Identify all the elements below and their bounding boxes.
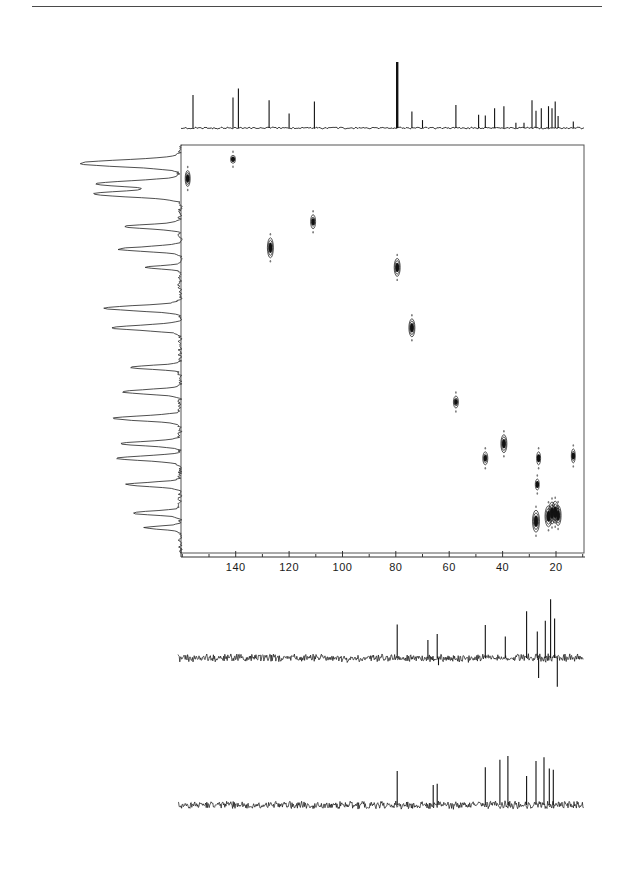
dept-baseline-noise	[178, 654, 584, 663]
hsqc-cross-peak	[394, 254, 400, 281]
proton-1d-projection	[80, 145, 182, 553]
hsqc-cross-peak-group	[185, 151, 575, 537]
hsqc-cross-peak	[555, 501, 561, 530]
hsqc-cross-peak	[409, 314, 415, 341]
hsqc-cross-peak	[501, 430, 507, 457]
axis-tick-label: 40	[496, 561, 509, 573]
axis-tick-label: 140	[226, 561, 246, 573]
hsqc-cross-peak	[571, 444, 575, 467]
carbon-13-chemical-shift-axis: 14012010080604020	[181, 548, 585, 573]
carbon-1d-projection	[181, 62, 584, 129]
hsqc-cross-peak	[537, 447, 541, 469]
hsqc-cross-peak	[311, 210, 316, 233]
dept-90-spectrum	[178, 756, 584, 809]
hsqc-contour-border	[181, 145, 584, 553]
axis-tick-label: 60	[443, 561, 456, 573]
hsqc-cross-peak	[483, 447, 488, 469]
hsqc-cross-peak	[267, 233, 273, 262]
hsqc-cross-peak	[533, 506, 540, 537]
dept-135-spectrum	[178, 599, 584, 687]
hsqc-cross-peak	[185, 166, 190, 191]
proton-trace	[80, 145, 182, 553]
axis-tick-label: 100	[333, 561, 353, 573]
nmr-figure: 14012010080604020	[0, 0, 617, 890]
dept-baseline-noise	[178, 801, 584, 810]
axis-tick-label: 120	[279, 561, 299, 573]
header-rule	[32, 6, 602, 7]
axis-tick-label: 20	[549, 561, 562, 573]
hsqc-cross-peak	[231, 151, 236, 168]
hsqc-cross-peak	[535, 474, 539, 494]
nmr-spectrum-canvas: 14012010080604020	[0, 0, 617, 890]
axis-tick-label: 80	[389, 561, 402, 573]
hsqc-cross-peak	[453, 391, 458, 412]
